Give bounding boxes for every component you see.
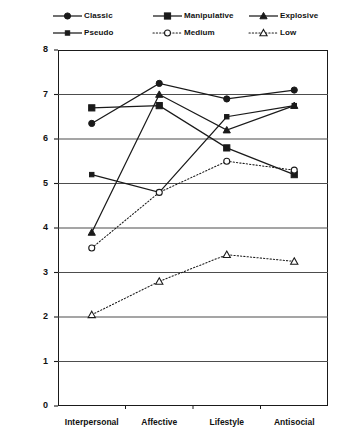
y-axis-tick-label: 5 [26,179,48,188]
series-layer [88,80,298,317]
y-axis-tick-label: 0 [26,401,48,410]
data-point [292,103,296,107]
data-point [90,172,94,176]
y-axis-tick-label: 7 [26,90,48,99]
x-axis-ticks [126,406,261,409]
data-point [224,158,230,164]
data-point [223,251,230,257]
data-point [89,105,95,111]
y-axis-tick-label: 3 [26,268,48,277]
y-axis-tick-label: 4 [26,223,48,232]
series-pseudo [90,103,297,194]
series-classic [89,80,298,126]
data-point [291,87,297,93]
data-point [291,167,297,173]
y-axis-tick-label: 6 [26,134,48,143]
data-point [89,245,95,251]
y-axis-tick-label: 8 [26,45,48,54]
gridlines [54,50,328,406]
data-point [156,80,162,86]
data-point [88,311,95,317]
data-point [156,189,162,195]
line-chart: Classic Manipulative Explosive Pseudo Me… [0,0,341,433]
y-axis-tick-label: 1 [26,357,48,366]
data-point [291,258,298,264]
data-point [224,145,230,151]
data-point [225,115,229,119]
x-axis-tick-label: Antisocial [254,417,334,427]
y-axis-tick-label: 2 [26,312,48,321]
data-point [224,96,230,102]
plot-canvas [0,0,341,433]
series-medium [89,158,298,251]
data-point [88,229,95,235]
data-point [156,103,162,109]
data-point [89,120,95,126]
series-low [88,251,298,317]
data-point [156,278,163,284]
